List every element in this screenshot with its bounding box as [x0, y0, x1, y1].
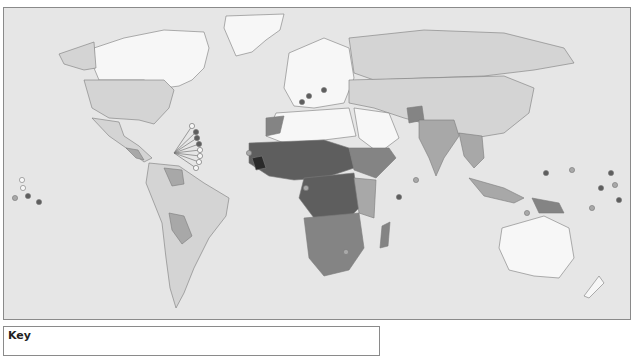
- region-sahel: [249, 140, 354, 180]
- region-europe: [284, 38, 354, 108]
- region-central-america: [92, 118, 152, 162]
- region-usa: [84, 80, 174, 124]
- region-new-zealand: [584, 276, 604, 298]
- region-alaska: [59, 42, 96, 70]
- world-map: [3, 7, 631, 320]
- world-map-svg: [4, 8, 630, 319]
- region-southern-africa: [304, 213, 364, 276]
- region-india: [419, 120, 459, 176]
- region-russia: [349, 30, 574, 80]
- region-east-africa: [354, 178, 376, 218]
- region-canada: [94, 30, 209, 88]
- region-se-asia: [459, 133, 484, 168]
- key-title: Key: [8, 329, 31, 342]
- region-png: [532, 198, 564, 213]
- region-indonesia: [469, 178, 524, 203]
- region-horn-africa: [349, 148, 396, 178]
- region-greenland: [224, 14, 284, 56]
- region-middle-east: [354, 108, 399, 153]
- region-australia: [499, 216, 574, 278]
- region-madagascar: [380, 222, 390, 248]
- map-key: Key: [3, 326, 380, 356]
